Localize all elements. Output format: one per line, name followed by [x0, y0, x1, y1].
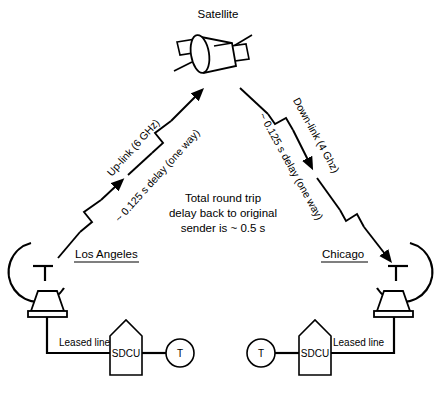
round-trip-note-line2: delay back to original	[169, 207, 277, 219]
chicago-terminal-label: T	[258, 348, 264, 359]
chicago-label-group: Chicago	[321, 248, 368, 262]
los-angeles-terminal: T	[142, 339, 194, 367]
svg-text:Down-link (4 Ghz): Down-link (4 Ghz)	[291, 95, 342, 174]
chicago-terminal: T	[247, 339, 299, 367]
los-angeles-sdcu: SDCU	[110, 320, 142, 375]
chicago-leased-line-label: Leased line	[333, 337, 385, 348]
los-angeles-terminal-label: T	[177, 348, 183, 359]
chicago-sdcu: SDCU	[299, 320, 331, 375]
chicago-sdcu-label: SDCU	[301, 348, 329, 359]
los-angeles-label: Los Angeles	[75, 248, 138, 260]
round-trip-note-line3: sender is ~ 0.5 s	[181, 222, 266, 234]
los-angeles-dish-icon	[9, 243, 67, 317]
satellite-icon	[174, 34, 252, 74]
los-angeles-label-group: Los Angeles	[74, 248, 139, 262]
diagram-canvas: Satellite Up-link (6 GHz) ~ 0.125 s dela…	[0, 0, 441, 397]
los-angeles-sdcu-label: SDCU	[112, 348, 140, 359]
svg-text:Up-link (6 GHz): Up-link (6 GHz)	[104, 116, 161, 178]
downlink-name-label: Down-link (4 Ghz)	[291, 95, 342, 174]
chicago-dish-icon	[374, 243, 432, 317]
uplink-path	[58, 96, 196, 258]
satellite-label: Satellite	[198, 8, 239, 20]
round-trip-note-line1: Total round trip	[185, 192, 261, 204]
chicago-label: Chicago	[322, 248, 364, 260]
uplink-name-label: Up-link (6 GHz)	[104, 116, 161, 178]
los-angeles-leased-line-label: Leased line	[59, 337, 111, 348]
round-trip-note: Total round trip delay back to original …	[169, 192, 277, 234]
satellite-link-diagram: Satellite Up-link (6 GHz) ~ 0.125 s dela…	[0, 0, 441, 397]
